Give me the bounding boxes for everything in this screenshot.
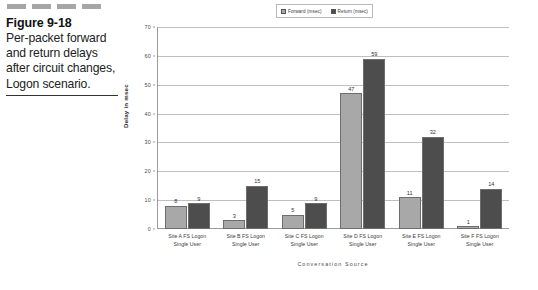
- dash-mark: [7, 4, 26, 9]
- bar-forward: [457, 226, 479, 229]
- decorative-dash-rule: [6, 0, 124, 9]
- bar-group: 1132: [392, 27, 451, 229]
- bar-return: [363, 59, 385, 229]
- bar-forward: [282, 215, 304, 229]
- bar-group: 4759: [334, 27, 393, 229]
- bar-value-label: 59: [363, 51, 385, 57]
- bar-value-label: 3: [223, 213, 245, 219]
- x-axis-title: Conversation Source: [157, 261, 509, 267]
- bar-group: 89: [158, 27, 217, 229]
- bar-forward: [340, 93, 362, 229]
- x-category-label-line: Single User: [275, 240, 334, 248]
- bar-value-label: 5: [282, 207, 304, 213]
- bar-forward: [165, 206, 187, 229]
- y-tick-label: 20: [145, 168, 151, 174]
- y-tick-mark: [153, 113, 155, 114]
- x-category-label-line: Site E FS Logon: [392, 232, 451, 240]
- bars-layer: 893155947591132114: [158, 27, 509, 229]
- caption-line: Per-packet forward: [6, 31, 124, 46]
- figure-number: Figure 9-18: [6, 16, 124, 30]
- bar-return: [305, 203, 327, 229]
- figure-caption-block: Figure 9-18 Per-packet forwardand return…: [6, 0, 124, 290]
- legend-swatch-icon: [281, 9, 286, 14]
- chart-container: Forward (msec)Return (msec) Delay in mse…: [128, 0, 538, 290]
- x-category-label-line: Single User: [217, 240, 276, 248]
- y-axis-ticks: 010203040506070: [128, 27, 155, 229]
- bar-value-label: 1: [457, 219, 479, 225]
- x-category-label-line: Site F FS Logon: [451, 232, 510, 240]
- caption-line: Logon scenario.: [6, 77, 124, 92]
- x-category-label: Site D FS LogonSingle User: [334, 232, 393, 249]
- bar-value-label: 14: [480, 181, 502, 187]
- legend-label: Return (msec): [338, 9, 368, 14]
- y-tick-label: 10: [145, 197, 151, 203]
- x-category-label: Site F FS LogonSingle User: [451, 232, 510, 249]
- bar-forward: [399, 197, 421, 229]
- x-axis-category-labels: Site A FS LogonSingle UserSite B FS Logo…: [158, 232, 509, 258]
- y-tick-mark: [153, 142, 155, 143]
- caption-divider: [6, 95, 118, 96]
- y-tick-label: 50: [145, 82, 151, 88]
- y-tick-mark: [153, 84, 155, 85]
- chart-legend: Forward (msec)Return (msec): [276, 4, 373, 18]
- legend-swatch-icon: [331, 9, 336, 14]
- x-category-label-line: Single User: [392, 240, 451, 248]
- y-tick-label: 0: [148, 226, 151, 232]
- bar-value-label: 15: [246, 178, 268, 184]
- bar-value-label: 11: [399, 190, 421, 196]
- y-tick-label: 70: [145, 24, 151, 30]
- dash-mark: [57, 4, 76, 9]
- bar-group: 315: [217, 27, 276, 229]
- bar-forward: [223, 220, 245, 229]
- bar-value-label: 9: [188, 196, 210, 202]
- bar-group: 59: [275, 27, 334, 229]
- y-tick-mark: [153, 200, 155, 201]
- x-category-label-line: Site D FS Logon: [334, 232, 393, 240]
- x-category-label-line: Site A FS Logon: [158, 232, 217, 240]
- legend-entry: Forward (msec): [281, 9, 322, 14]
- caption-line: after circuit changes,: [6, 61, 124, 76]
- figure-caption-text: Per-packet forwardand return delaysafter…: [6, 31, 124, 92]
- y-tick-label: 30: [145, 139, 151, 145]
- y-tick-mark: [153, 55, 155, 56]
- bar-return: [188, 203, 210, 229]
- dash-mark: [32, 4, 51, 9]
- bar-value-label: 9: [305, 196, 327, 202]
- x-category-label-line: Site B FS Logon: [217, 232, 276, 240]
- bar-return: [480, 189, 502, 229]
- x-category-label: Site E FS LogonSingle User: [392, 232, 451, 249]
- x-category-label-line: Single User: [158, 240, 217, 248]
- x-category-label: Site B FS LogonSingle User: [217, 232, 276, 249]
- bar-value-label: 47: [340, 86, 362, 92]
- y-tick-label: 60: [145, 53, 151, 59]
- y-tick-mark: [153, 229, 155, 230]
- bar-value-label: 8: [165, 198, 187, 204]
- x-category-label: Site C FS LogonSingle User: [275, 232, 334, 249]
- bar-value-label: 32: [422, 129, 444, 135]
- x-category-label: Site A FS LogonSingle User: [158, 232, 217, 249]
- y-tick-mark: [153, 27, 155, 28]
- bar-return: [246, 186, 268, 229]
- dash-mark: [82, 4, 101, 9]
- bar-group: 114: [451, 27, 510, 229]
- legend-entry: Return (msec): [331, 9, 368, 14]
- x-category-label-line: Single User: [451, 240, 510, 248]
- y-tick-mark: [153, 171, 155, 172]
- bar-return: [422, 137, 444, 229]
- y-tick-label: 40: [145, 111, 151, 117]
- legend-label: Forward (msec): [288, 9, 322, 14]
- caption-line: and return delays: [6, 46, 124, 61]
- x-category-label-line: Single User: [334, 240, 393, 248]
- x-category-label-line: Site C FS Logon: [275, 232, 334, 240]
